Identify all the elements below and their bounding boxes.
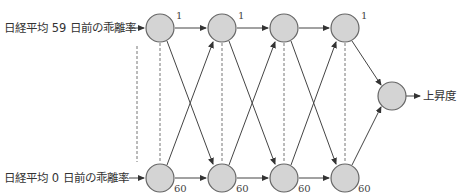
top-label-2: 1 — [238, 10, 244, 22]
node-bottom-1 — [146, 164, 174, 192]
input-label-bottom: 日経平均 0 日前の乖離率 — [4, 171, 129, 185]
cross-edges — [167, 41, 381, 165]
bottom-label-4: 60 — [358, 183, 371, 195]
node-top-4 — [331, 14, 359, 42]
node-bottom-3 — [270, 164, 298, 192]
output-label: 上昇度 — [423, 89, 456, 103]
node-bottom-2 — [208, 164, 236, 192]
bottom-label-3: 60 — [298, 183, 311, 195]
node-top-3 — [270, 14, 298, 42]
node-top-2 — [208, 14, 236, 42]
input-label-top: 日経平均 59 日前の乖離率 — [4, 21, 136, 35]
node-bottom-4 — [331, 164, 359, 192]
node-output — [378, 82, 406, 110]
top-label-1: 1 — [176, 10, 182, 22]
bottom-label-2: 60 — [236, 183, 249, 195]
bottom-label-1: 60 — [174, 183, 187, 195]
node-top-1 — [146, 14, 174, 42]
top-label-3: 1 — [361, 10, 367, 22]
